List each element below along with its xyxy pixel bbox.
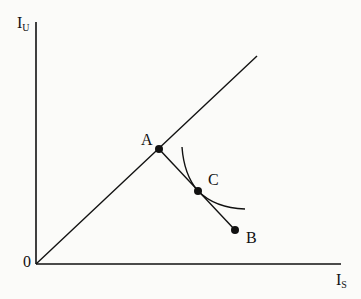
x-axis-label: IS	[336, 271, 347, 290]
origin-label: 0	[23, 253, 31, 271]
point-a	[155, 145, 163, 153]
diagram-canvas	[0, 0, 361, 299]
point-b-label: B	[246, 229, 257, 247]
point-c-label: C	[208, 171, 219, 189]
forty-five-degree-line	[36, 56, 257, 264]
y-axis-label: IU	[17, 14, 30, 33]
point-b	[231, 226, 239, 234]
point-c	[194, 187, 202, 195]
point-a-label: A	[141, 131, 153, 149]
